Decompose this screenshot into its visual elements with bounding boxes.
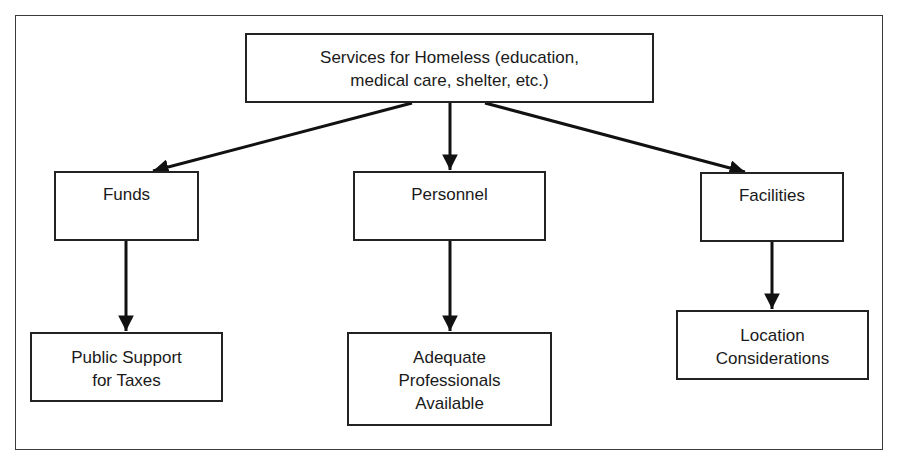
node-public-support-for-taxes: Public Support for Taxes <box>30 332 223 402</box>
node-label-line: medical care, shelter, etc.) <box>247 69 652 92</box>
node-label-line: Available <box>349 392 550 415</box>
node-personnel: Personnel <box>353 171 546 241</box>
node-facilities: Facilities <box>700 172 844 242</box>
node-adequate-professionals-available: Adequate Professionals Available <box>347 332 552 426</box>
node-label-line: Services for Homeless (education, <box>247 46 652 69</box>
arrow-services-to-facilities <box>485 103 745 172</box>
node-funds: Funds <box>54 171 199 241</box>
arrow-services-to-funds <box>153 103 412 171</box>
node-label-line: Professionals <box>349 369 550 392</box>
node-label-line: Public Support <box>32 346 221 369</box>
node-label-line: Considerations <box>678 347 867 370</box>
node-label-line: for Taxes <box>32 369 221 392</box>
node-label-line: Location <box>678 324 867 347</box>
node-label-line: Adequate <box>349 346 550 369</box>
node-label: Facilities <box>702 184 842 207</box>
node-services-for-homeless: Services for Homeless (education, medica… <box>245 33 654 103</box>
node-label: Personnel <box>355 183 544 206</box>
node-label: Funds <box>56 183 197 206</box>
node-location-considerations: Location Considerations <box>676 310 869 380</box>
